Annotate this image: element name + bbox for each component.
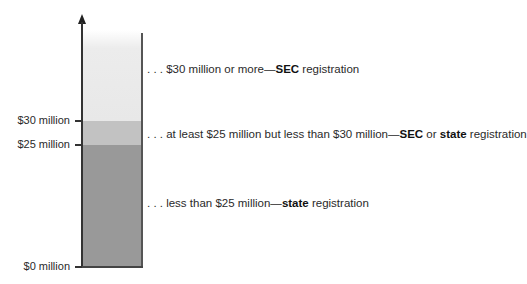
- label-text: . . . less than $25 million—: [147, 197, 282, 209]
- label-text: registration: [467, 128, 527, 140]
- bar-right-edge: [141, 33, 143, 267]
- segment-25-to-30-million: [83, 121, 142, 145]
- label-state-registration: . . . less than $25 million—state regist…: [147, 196, 369, 210]
- label-bold: state: [440, 128, 467, 140]
- tick-0-million: [75, 266, 82, 268]
- label-text: or: [423, 128, 440, 140]
- label-text: . . . at least $25 million but less than…: [147, 128, 400, 140]
- tick-label-30-million: $30 million: [17, 114, 70, 126]
- label-sec-registration: . . . $30 million or more—SEC registrati…: [147, 62, 359, 76]
- label-bold: SEC: [275, 63, 299, 75]
- label-text: registration: [309, 197, 369, 209]
- bar-bottom-edge: [81, 266, 143, 268]
- label-bold: state: [282, 197, 309, 209]
- tick-label-25-million: $25 million: [17, 138, 70, 150]
- tick-label-0-million: $0 million: [24, 260, 70, 272]
- tick-30-million: [75, 120, 82, 122]
- label-text: . . . $30 million or more—: [147, 63, 275, 75]
- label-bold: SEC: [400, 128, 424, 140]
- tick-25-million: [75, 144, 82, 146]
- segment-30-million-or-more: [83, 30, 142, 121]
- label-sec-or-state-registration: . . . at least $25 million but less than…: [147, 127, 527, 141]
- segment-less-than-25-million: [83, 145, 142, 266]
- label-text: registration: [299, 63, 359, 75]
